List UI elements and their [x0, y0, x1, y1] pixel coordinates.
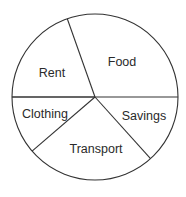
slice-label-clothing: Clothing: [22, 107, 68, 121]
slice-label-food: Food: [108, 55, 137, 69]
pie-chart: SavingsTransportClothingRentFood: [0, 0, 186, 197]
slice-label-savings: Savings: [122, 109, 166, 123]
slice-label-transport: Transport: [69, 142, 123, 156]
slice-label-rent: Rent: [39, 66, 66, 80]
